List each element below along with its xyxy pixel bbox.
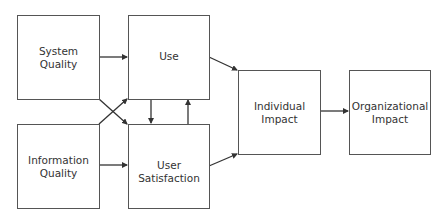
node-label-line1: Organizational [352,100,428,113]
node-label-line2: Satisfaction [138,172,200,185]
node-label-line1: System [39,45,78,58]
node-label-line2: Impact [254,113,305,126]
node-label-line2: Quality [28,167,89,180]
node-system-quality: SystemQuality [17,15,100,100]
node-label-line2: Impact [352,113,428,126]
node-label-line1: Individual [254,100,305,113]
node-label-line1: User [138,159,200,172]
node-user-satisfaction: UserSatisfaction [128,124,210,209]
node-label-line1: Use [159,50,179,63]
node-organizational-impact: OrganizationalImpact [349,70,431,155]
edge-use-to-individual-impact [209,57,237,70]
node-individual-impact: IndividualImpact [238,70,321,155]
node-information-quality: InformationQuality [17,124,100,209]
edge-user-satisfaction-to-individual-impact [209,154,237,166]
node-use: Use [128,15,210,100]
node-label-line1: Information [28,154,89,167]
node-label-line2: Quality [39,58,78,71]
